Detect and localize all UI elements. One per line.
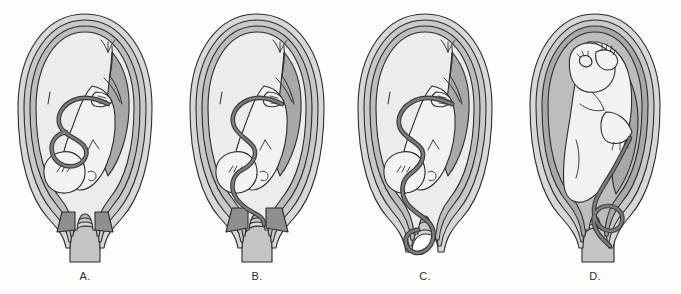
panel-a: A. [0,0,170,294]
panel-a-label: A. [0,270,170,282]
panel-d-label: D. [510,270,680,282]
uterus-fetus-cord-normal-icon [0,0,170,270]
figure-umbilical-cord-prolapse: A. [0,0,681,294]
uterus-fetus-cord-overt-prolapse-icon [340,0,510,270]
panel-b: B. [172,0,342,294]
uterus-fetus-breech-cord-icon [510,0,680,270]
panel-b-label: B. [172,270,342,282]
panel-c-label: C. [340,270,510,282]
uterus-fetus-cord-occult-icon [172,0,342,270]
panel-d: D. [510,0,680,294]
panel-c: C. [340,0,510,294]
